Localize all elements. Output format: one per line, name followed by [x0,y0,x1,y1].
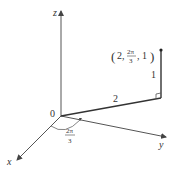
z-axis-label: z [52,7,57,18]
x-axis [17,116,61,160]
cylindrical-coordinates-diagram: z y x 0 2 1 ( 2, 2π 3 , 1 ) 2π 3 [0,0,169,176]
svg-text:, 1: , 1 [137,50,147,61]
svg-text:3: 3 [68,137,72,145]
radius-label: 2 [113,93,118,104]
svg-text:3: 3 [129,57,133,65]
svg-text:2π: 2π [127,48,135,56]
svg-text:2π: 2π [66,127,74,135]
point-label: ( 2, 2π 3 , 1 ) [111,48,154,65]
origin-label: 0 [50,108,55,119]
x-axis-label: x [6,156,12,167]
svg-text:): ) [150,49,154,64]
svg-text:(: ( [111,49,115,64]
angle-label: 2π 3 [65,127,75,145]
height-label: 1 [151,69,156,80]
svg-text:2,: 2, [117,50,125,61]
y-axis-label: y [158,139,164,150]
point-dot [159,48,162,51]
y-axis [61,116,166,137]
radius-segment [61,98,161,116]
